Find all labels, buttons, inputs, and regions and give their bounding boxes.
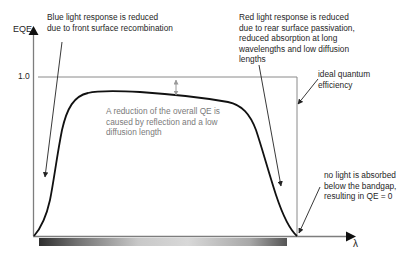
bandgap-annotation: no light is absorbed below the bandgap, … — [324, 170, 396, 202]
red-annotation-line-1: Red light response is reduced — [239, 12, 355, 23]
reduction-annotation-line-2: caused by reflection and a low — [106, 117, 220, 128]
reduction-annotation-line-3: diffusion length — [106, 127, 220, 138]
red-response-arrow — [259, 65, 281, 186]
reduction-annotation: A reduction of the overall QE is caused … — [106, 106, 220, 138]
red-annotation-line-2: due to rear surface passivation, — [239, 23, 355, 34]
bandgap-annotation-line-2: below the bandgap, — [324, 181, 396, 192]
ideal-qe-line — [38, 77, 297, 236]
spectrum-gradient-bar — [39, 238, 287, 246]
ideal-qe-arrow — [298, 79, 318, 104]
x-axis-label: λ — [353, 238, 358, 249]
ideal-qe-annotation: ideal quantum efficiency — [318, 69, 370, 90]
red-response-annotation: Red light response is reduced due to rea… — [239, 12, 355, 65]
red-annotation-line-4: wavelengths and low diffusion — [239, 44, 355, 55]
y-tick-1-0: 1.0 — [18, 71, 30, 81]
red-annotation-line-3: reduced absorption at long — [239, 33, 355, 44]
blue-annotation-line-2: due to front surface recombination — [47, 23, 173, 34]
ideal-annotation-line-1: ideal quantum — [318, 69, 370, 80]
y-axis-label: EQE — [13, 24, 32, 34]
bandgap-annotation-line-1: no light is absorbed — [324, 170, 396, 181]
ideal-annotation-line-2: efficiency — [318, 80, 370, 91]
blue-annotation-line-1: Blue light response is reduced — [47, 12, 173, 23]
blue-response-arrow — [45, 42, 62, 177]
reduction-annotation-line-1: A reduction of the overall QE is — [106, 106, 220, 117]
red-annotation-line-5: lengths — [239, 54, 355, 65]
blue-response-annotation: Blue light response is reduced due to fr… — [47, 12, 173, 33]
bandgap-arrow — [299, 187, 320, 233]
bandgap-annotation-line-3: resulting in QE = 0 — [324, 191, 396, 202]
